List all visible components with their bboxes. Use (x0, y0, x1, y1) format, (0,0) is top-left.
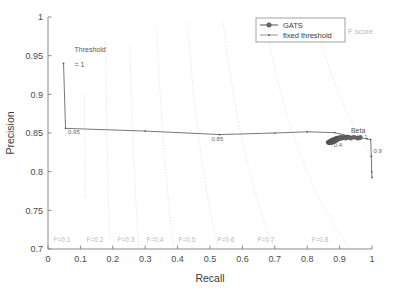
fscore-contour-label-2: F=0.2 (87, 236, 104, 243)
x-tick-label-1: 0.1 (74, 254, 87, 264)
fscore-contour-label-6: F=0.6 (218, 236, 235, 243)
x-tick-label-0: 0 (45, 254, 50, 264)
y-axis-title: Precision (4, 111, 16, 154)
x-tick-label-4: 0.4 (171, 254, 184, 264)
x-tick-label-10: 1 (369, 254, 374, 264)
annotation-beta-09: 0.9 (374, 148, 383, 154)
fscore-contour-label-8: F=0.8 (312, 236, 329, 243)
y-tick-label-6: 1 (38, 12, 43, 22)
x-axis-title: Recall (195, 272, 224, 284)
x-tick-label-2: 0.2 (107, 254, 120, 264)
y-tick-label-3: 0.85 (25, 128, 43, 138)
annotation-threshold-label: Threshold (75, 46, 106, 53)
fscore-contour-label-1: F=0.1 (54, 236, 71, 243)
x-tick-label-3: 0.3 (139, 254, 152, 264)
fscore-contour-0.7 (223, 21, 275, 249)
fscore-contour-label-3: F=0.3 (118, 236, 135, 243)
series-point-fixed-threshold-1 (65, 128, 67, 130)
y-tick-label-2: 0.8 (30, 167, 43, 177)
y-tick-label-4: 0.9 (30, 90, 43, 100)
x-tick-label-7: 0.7 (269, 254, 282, 264)
series-point-fixed-threshold-11 (371, 155, 373, 157)
annotation-threshold-085: 0.85 (212, 136, 224, 142)
series-point-fixed-threshold-5 (306, 131, 308, 133)
fscore-caption: F score (348, 27, 373, 36)
legend-marker-gats (267, 23, 271, 27)
series-point-fixed-threshold-12 (371, 171, 373, 173)
precision-recall-chart: F=0.1F=0.2F=0.3F=0.4F=0.5F=0.6F=0.7F=0.8… (0, 0, 393, 291)
x-tick-label-8: 0.8 (301, 254, 314, 264)
fscore-contour-0.3 (106, 42, 110, 240)
fscore-contour-label-7: F=0.7 (258, 236, 275, 243)
annotation-beta-01: = 0.1 (354, 134, 368, 140)
x-tick-label-5: 0.5 (204, 254, 217, 264)
chart-canvas: F=0.1F=0.2F=0.3F=0.4F=0.5F=0.6F=0.7F=0.8… (0, 0, 393, 291)
x-tick-label-9: 0.9 (333, 254, 346, 264)
series-point-fixed-threshold-6 (334, 132, 336, 134)
fscore-contour-0.2 (84, 94, 85, 197)
fscore-contour-0.4 (130, 46, 139, 249)
series-point-fixed-threshold-10 (370, 139, 372, 141)
legend-marker-fixed-threshold (268, 34, 270, 36)
series-line-fixed-threshold (64, 63, 372, 177)
y-tick-label-1: 0.75 (25, 206, 43, 216)
fscore-contour-label-5: F=0.5 (179, 236, 196, 243)
legend-label-fixed-threshold: fixed threshold (283, 31, 332, 40)
annotation-beta-04: 0.4 (334, 142, 343, 148)
series-point-fixed-threshold-13 (371, 177, 373, 179)
fscore-contour-0.5 (157, 28, 174, 245)
series-point-fixed-threshold-4 (274, 132, 276, 134)
annotation-threshold-value: = 1 (75, 61, 85, 68)
x-tick-label-6: 0.6 (236, 254, 249, 264)
legend-label-gats: GATS (283, 21, 303, 30)
annotation-threshold-095: 0.95 (68, 129, 80, 135)
y-tick-label-0: 0.7 (30, 244, 43, 254)
fscore-contour-label-4: F=0.4 (147, 236, 164, 243)
y-tick-label-5: 0.95 (25, 51, 43, 61)
series-point-fixed-threshold-2 (144, 130, 146, 132)
series-point-fixed-threshold-0 (63, 63, 65, 65)
